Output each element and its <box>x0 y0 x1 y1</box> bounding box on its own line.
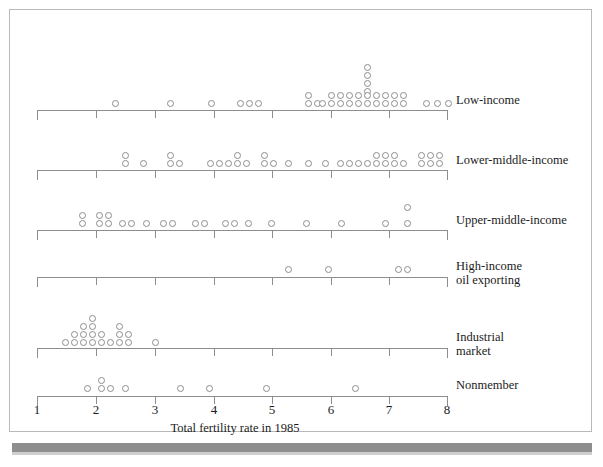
axis-line-industrial-market <box>37 348 447 349</box>
data-point-upper-middle-income <box>268 220 275 227</box>
data-point-high-income-oil-exporting <box>395 266 402 273</box>
data-point-low-income <box>346 100 353 107</box>
axis-tick-industrial-market-6 <box>389 348 390 356</box>
row-label-line2: oil exporting <box>456 273 522 287</box>
data-point-low-income <box>364 92 371 99</box>
axis-tick-lower-middle-income-6 <box>389 170 390 178</box>
axis-tick-low-income-5 <box>331 110 332 118</box>
data-point-nonmember <box>98 377 105 384</box>
data-point-lower-middle-income <box>346 160 353 167</box>
axis-tick-upper-middle-income-3 <box>214 230 215 238</box>
data-point-industrial-market <box>62 339 69 346</box>
data-point-industrial-market <box>107 339 114 346</box>
data-point-upper-middle-income <box>231 220 238 227</box>
data-point-low-income <box>400 92 407 99</box>
axis-tick-upper-middle-income-4 <box>272 230 273 238</box>
data-point-low-income <box>391 92 398 99</box>
data-point-lower-middle-income <box>418 160 425 167</box>
data-point-low-income <box>434 100 441 107</box>
row-label-low-income: Low-income <box>456 93 520 107</box>
data-point-upper-middle-income <box>143 220 150 227</box>
axis-tick-upper-middle-income-0 <box>37 230 38 240</box>
data-point-lower-middle-income <box>243 160 250 167</box>
data-point-lower-middle-income <box>391 160 398 167</box>
data-point-industrial-market <box>80 323 87 330</box>
axis-tick-low-income-3 <box>214 110 215 118</box>
data-point-industrial-market <box>98 339 105 346</box>
data-point-industrial-market <box>71 331 78 338</box>
data-point-low-income <box>237 100 244 107</box>
row-label-line2: market <box>456 344 504 358</box>
data-point-low-income <box>382 100 389 107</box>
data-point-upper-middle-income <box>79 212 86 219</box>
axis-tick-lower-middle-income-2 <box>155 170 156 178</box>
data-point-upper-middle-income <box>105 212 112 219</box>
data-point-upper-middle-income <box>192 220 199 227</box>
data-point-low-income <box>328 100 335 107</box>
axis-tick-low-income-1 <box>96 110 97 118</box>
axis-line-nonmember <box>37 396 447 397</box>
data-point-low-income <box>346 92 353 99</box>
data-point-low-income <box>373 100 380 107</box>
data-point-industrial-market <box>80 339 87 346</box>
axis-tick-low-income-7 <box>447 110 448 120</box>
axis-tick-lower-middle-income-5 <box>331 170 332 178</box>
axis-tick-industrial-market-2 <box>155 348 156 356</box>
data-point-lower-middle-income <box>216 160 223 167</box>
axis-tick-upper-middle-income-5 <box>331 230 332 238</box>
row-label-line1: Industrial <box>456 330 504 344</box>
data-point-low-income <box>328 92 335 99</box>
axis-line-high-income-oil-exporting <box>37 277 447 278</box>
x-axis-title: Total fertility rate in 1985 <box>0 421 470 436</box>
axis-tick-industrial-market-5 <box>331 348 332 356</box>
data-point-industrial-market <box>116 331 123 338</box>
data-point-low-income <box>445 100 452 107</box>
data-point-low-income <box>167 100 174 107</box>
row-label-line1: Lower-middle-income <box>456 153 568 167</box>
data-point-lower-middle-income <box>122 160 129 167</box>
data-point-low-income <box>355 92 362 99</box>
axis-tick-low-income-6 <box>389 110 390 118</box>
data-point-upper-middle-income <box>128 220 135 227</box>
data-point-lower-middle-income <box>436 160 443 167</box>
data-point-upper-middle-income <box>169 220 176 227</box>
data-point-low-income <box>364 100 371 107</box>
x-tick-label-1: 2 <box>86 402 106 418</box>
axis-tick-high-income-oil-exporting-1 <box>96 277 97 285</box>
data-point-low-income <box>305 92 312 99</box>
data-point-upper-middle-income <box>303 220 310 227</box>
x-tick-label-2: 3 <box>145 402 165 418</box>
data-point-nonmember <box>263 385 270 392</box>
axis-tick-upper-middle-income-2 <box>155 230 156 238</box>
data-point-low-income <box>382 92 389 99</box>
data-point-low-income <box>337 92 344 99</box>
data-point-low-income <box>364 72 371 79</box>
data-point-upper-middle-income <box>245 220 252 227</box>
row-label-upper-middle-income: Upper-middle-income <box>456 213 567 227</box>
axis-line-low-income <box>37 110 447 111</box>
data-point-low-income <box>391 100 398 107</box>
data-point-lower-middle-income <box>322 160 329 167</box>
axis-tick-industrial-market-0 <box>37 348 38 358</box>
x-tick-label-6: 7 <box>379 402 399 418</box>
axis-tick-upper-middle-income-6 <box>389 230 390 238</box>
data-point-upper-middle-income <box>382 220 389 227</box>
data-point-industrial-market <box>80 331 87 338</box>
data-point-nonmember <box>84 385 91 392</box>
axis-tick-low-income-4 <box>272 110 273 118</box>
data-point-lower-middle-income <box>400 160 407 167</box>
axis-tick-industrial-market-7 <box>447 348 448 358</box>
data-point-low-income <box>208 100 215 107</box>
data-point-lower-middle-income <box>382 152 389 159</box>
data-point-lower-middle-income <box>140 160 147 167</box>
data-point-lower-middle-income <box>167 160 174 167</box>
data-point-lower-middle-income <box>427 152 434 159</box>
data-point-low-income <box>255 100 262 107</box>
data-point-upper-middle-income <box>119 220 126 227</box>
data-point-lower-middle-income <box>167 152 174 159</box>
data-point-industrial-market <box>98 331 105 338</box>
axis-tick-upper-middle-income-1 <box>96 230 97 238</box>
row-label-line1: High-income <box>456 259 522 273</box>
data-point-industrial-market <box>71 339 78 346</box>
data-point-nonmember <box>107 385 114 392</box>
